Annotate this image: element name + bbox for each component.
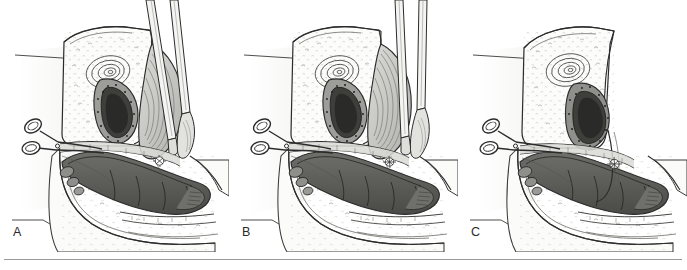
panel-label-c: C bbox=[471, 226, 480, 239]
panel-c-illustration bbox=[458, 0, 687, 252]
bottom-rule bbox=[4, 259, 682, 260]
panel-label-a: A bbox=[13, 226, 22, 239]
caption-zone bbox=[0, 261, 686, 270]
panel-c: C bbox=[458, 0, 687, 252]
panel-label-b: B bbox=[242, 226, 251, 239]
panel-b: B bbox=[229, 0, 458, 252]
panel-a: A bbox=[0, 0, 229, 252]
panel-a-illustration bbox=[0, 0, 229, 252]
panel-b-illustration bbox=[229, 0, 458, 252]
